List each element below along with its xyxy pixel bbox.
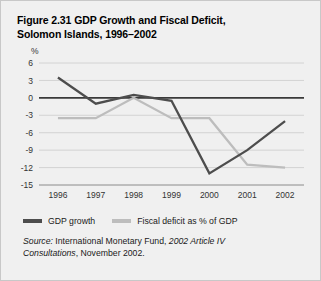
figure-card: Figure 2.31 GDP Growth and Fiscal Defici… [0,0,321,281]
data-series-group [58,78,285,174]
y-axis-tick-label: -15 [21,180,34,190]
chart-plot-area: 630-3-6-9-12-15 199619971998199920002001… [13,57,310,209]
source-label: Source: [23,236,53,246]
x-axis-tick-label: 2000 [200,190,219,200]
source-text-before: International Monetary Fund, [53,236,169,246]
x-axis-tick-label: 1998 [124,190,143,200]
chart-legend: GDP growth Fiscal deficit as % of GDP [23,216,308,226]
legend-item-fiscal-deficit: Fiscal deficit as % of GDP [112,216,237,226]
series-line-gdp-growth [58,78,285,174]
source-text-after: , November 2002. [76,248,145,258]
y-axis-tick-label: 3 [28,76,33,86]
y-axis-tick-label: -12 [21,163,34,173]
x-axis-tick-label: 1996 [48,190,67,200]
y-axis-unit-label: % [31,46,308,56]
legend-swatch-gdp-growth [23,219,42,222]
y-axis-tick-label: -6 [25,128,33,138]
figure-title: Figure 2.31 GDP Growth and Fiscal Defici… [17,13,308,41]
y-axis-tick-label: 0 [28,93,33,103]
line-chart-svg: 630-3-6-9-12-15 199619971998199920002001… [13,57,310,209]
x-axis-tick-label: 2001 [238,190,257,200]
y-axis-tick-label: -9 [25,145,33,155]
x-axis-tick-label: 1999 [162,190,181,200]
y-axis-tick-label: 6 [28,58,33,68]
legend-label-gdp-growth: GDP growth [48,216,95,226]
x-axis-tick-label: 1997 [86,190,105,200]
x-axis-tick-labels: 1996199719981999200020012002 [48,190,294,200]
legend-swatch-fiscal-deficit [112,219,131,222]
y-axis-tick-label: -3 [25,111,33,121]
source-note: Source: International Monetary Fund, 200… [23,235,273,260]
legend-item-gdp-growth: GDP growth [23,216,95,226]
y-axis-tick-labels: 630-3-6-9-12-15 [21,58,34,190]
legend-label-fiscal-deficit: Fiscal deficit as % of GDP [137,216,237,226]
x-axis-tick-label: 2002 [276,190,295,200]
